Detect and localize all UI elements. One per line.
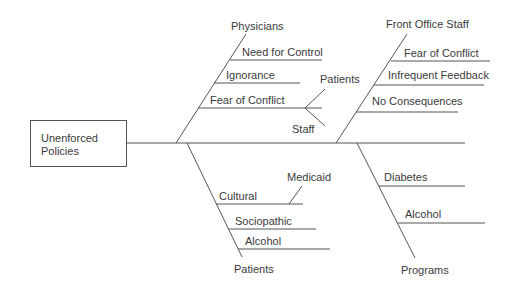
effect-box: UnenforcedPolicies: [30, 120, 127, 167]
cause-ignorance: Ignorance: [226, 69, 275, 82]
cause-alcohol-patients: Alcohol: [245, 235, 281, 248]
cause-fear-of-conflict: Fear of Conflict: [210, 94, 285, 107]
cause-need-for-control: Need for Control: [242, 46, 323, 59]
category-programs: Programs: [401, 264, 449, 277]
bone-front-office-staff: [336, 34, 407, 143]
cause-sociopathic: Sociopathic: [235, 215, 292, 228]
cause-no-consequences: No Consequences: [372, 95, 463, 108]
cause-alcohol-programs: Alcohol: [405, 208, 441, 221]
category-physicians: Physicians: [231, 20, 284, 33]
effect-line-2: Policies: [41, 145, 79, 157]
sub-line-patients: [305, 89, 325, 108]
cause-fear-of-conflict-staff: Fear of Conflict: [404, 47, 479, 60]
sub-cause-staff: Staff: [292, 123, 314, 136]
bone-physicians: [176, 34, 246, 143]
effect-label: UnenforcedPolicies: [41, 132, 98, 158]
sub-line-medicaid: [289, 186, 302, 204]
category-patients: Patients: [234, 263, 274, 276]
cause-cultural: Cultural: [219, 190, 257, 203]
sub-cause-patients: Patients: [320, 73, 360, 86]
sub-cause-medicaid: Medicaid: [287, 171, 331, 184]
effect-line-1: Unenforced: [41, 132, 98, 144]
cause-infrequent-feedback: Infrequent Feedback: [388, 69, 489, 82]
category-front-office-staff: Front Office Staff: [386, 18, 469, 31]
bone-programs: [357, 143, 415, 258]
cause-diabetes: Diabetes: [384, 171, 427, 184]
